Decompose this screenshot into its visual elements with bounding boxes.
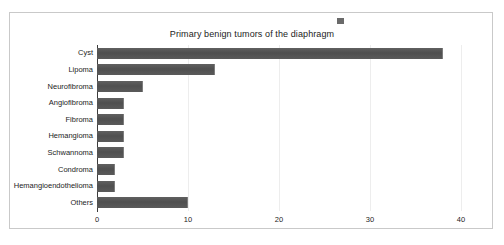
bar [97, 164, 115, 175]
category-label: Hemangioendothelioma [10, 182, 93, 190]
bar [97, 98, 124, 109]
category-label: Neurofibroma [10, 83, 93, 91]
bar [97, 181, 115, 192]
category-label: Condroma [10, 166, 93, 174]
category-axis-labels: CystLipomaNeurofibromaAngiofibromaFibrom… [10, 45, 93, 211]
category-label: Others [10, 199, 93, 207]
bar [97, 81, 143, 92]
x-tick-label: 10 [184, 215, 192, 224]
gridline [461, 45, 462, 211]
bar [97, 131, 124, 142]
x-tick-label: 0 [95, 215, 99, 224]
bar [97, 197, 188, 208]
x-tick-label: 40 [457, 215, 465, 224]
chart-figure: Primary benign tumors of the diaphragm C… [9, 12, 493, 229]
legend-marker-icon [337, 18, 344, 24]
category-label: Fibroma [10, 116, 93, 124]
bar [97, 48, 443, 59]
plot-area [97, 45, 461, 211]
bar [97, 114, 124, 125]
x-tick-label: 30 [366, 215, 374, 224]
chart-title: Primary benign tumors of the diaphragm [10, 29, 494, 39]
x-tick-label: 20 [275, 215, 283, 224]
bar [97, 147, 124, 158]
bar [97, 64, 215, 75]
category-label: Angiofibroma [10, 99, 93, 107]
gridline [279, 45, 280, 211]
category-label: Cyst [10, 49, 93, 57]
x-axis-tick-labels: 010203040 [97, 215, 461, 229]
category-label: Lipoma [10, 66, 93, 74]
gridline [370, 45, 371, 211]
category-label: Hemangioma [10, 132, 93, 140]
category-label: Schwannoma [10, 149, 93, 157]
